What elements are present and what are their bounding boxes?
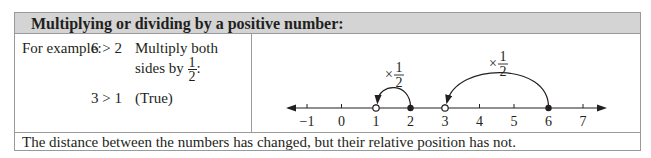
arc-label-small: × 1 2 [385,60,404,90]
tick-label: −1 [300,114,315,129]
instruction-line1: Multiply both [135,40,218,57]
open-point-1 [373,105,379,111]
closed-point-6 [545,105,551,111]
left-arrow-icon [286,105,296,112]
svg-text:2: 2 [500,64,507,79]
tick-label: 2 [407,114,414,129]
arc-six-to-three [447,73,549,107]
rule-box: Multiplying or dividing by a positive nu… [14,12,641,151]
svg-text:×: × [489,56,497,71]
footer-note: The distance between the numbers has cha… [22,133,516,151]
tick-label: 5 [511,114,518,129]
tick-label: 6 [545,114,552,129]
arc-two-to-one [378,88,411,107]
number-line: −1 0 1 2 3 4 5 6 7 × 1 [252,34,642,132]
inequality-before: 6 > 2 [91,40,122,57]
example-label: For example: [22,40,102,57]
closed-point-2 [407,105,413,111]
instruction-line2-group: sides by 1 2 : [135,56,201,83]
tick-label: 1 [373,114,380,129]
tick-label: 0 [338,114,345,129]
instruction-line2: sides by [135,60,184,76]
inequality-after: 3 > 1 [91,90,122,107]
rule-footer: The distance between the numbers has cha… [15,132,640,151]
example-row: For example: 6 > 2 Multiply both sides b… [15,34,640,132]
tick-labels: −1 0 1 2 3 4 5 6 7 [300,114,587,129]
right-arrow-icon [597,105,607,112]
fraction-one-half: 1 2 [188,56,197,83]
svg-text:1: 1 [500,49,507,64]
svg-text:1: 1 [396,60,403,75]
tick-label: 3 [442,114,449,129]
open-point-3 [442,105,448,111]
rule-header: Multiplying or dividing by a positive nu… [15,13,640,34]
result-label: (True) [135,90,173,107]
svg-text:2: 2 [396,75,403,90]
arc-label-large: × 1 2 [489,49,508,79]
tick-label: 4 [476,114,483,129]
tick-label: 7 [580,114,587,129]
svg-text:×: × [385,67,393,82]
rule-title: Multiplying or dividing by a positive nu… [31,14,344,33]
